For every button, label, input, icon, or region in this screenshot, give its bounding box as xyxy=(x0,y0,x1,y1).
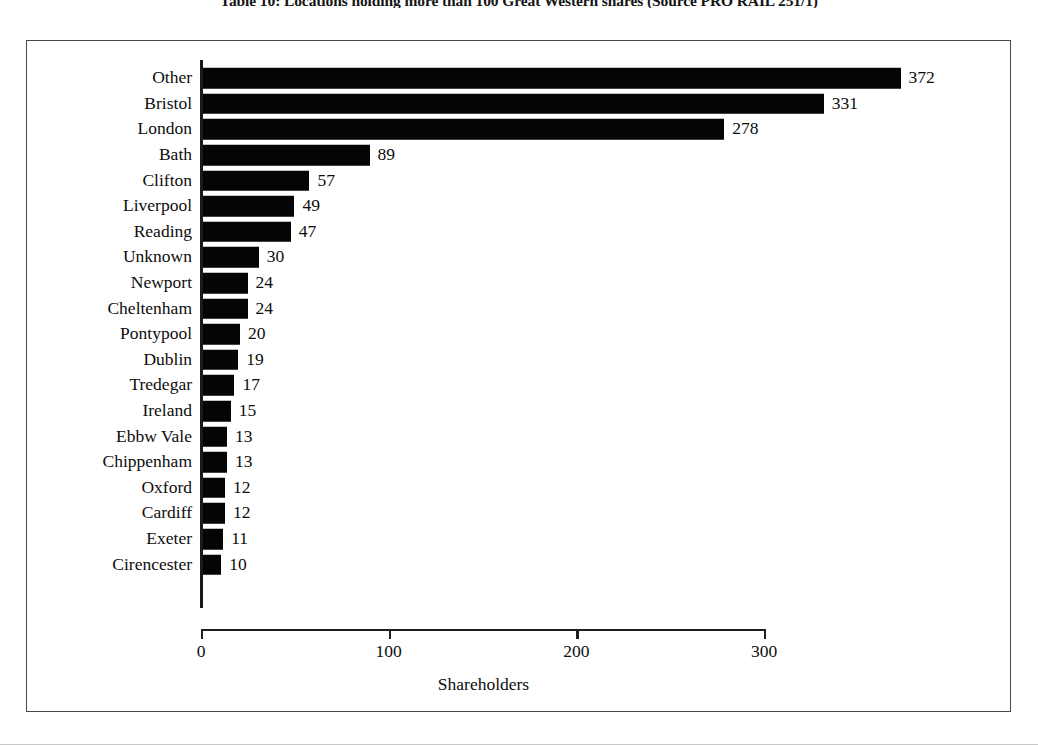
figure-frame xyxy=(26,40,1011,712)
page-bottom-rule xyxy=(0,744,1038,745)
figure-caption: Table 10: Locations holding more than 10… xyxy=(0,0,1038,8)
